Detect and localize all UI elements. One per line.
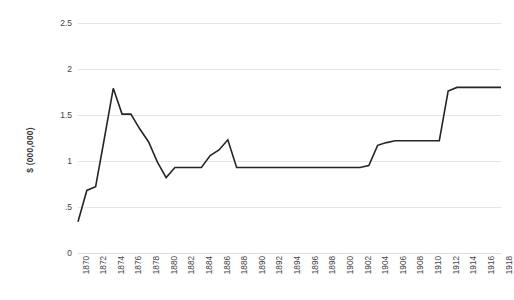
x-tick-label: 1890 <box>258 256 267 290</box>
y-axis-title: $ (000,000) <box>22 0 38 300</box>
gridline <box>78 253 501 254</box>
series-path <box>78 87 501 221</box>
x-tick-label: 1906 <box>399 256 408 290</box>
x-tick-label: 1880 <box>170 256 179 290</box>
x-tick-label: 1874 <box>117 256 126 290</box>
y-tick-label: .5 <box>42 202 72 212</box>
x-tick-label: 1914 <box>469 256 478 290</box>
series-line-value <box>78 23 501 253</box>
x-tick-label: 1884 <box>205 256 214 290</box>
x-tick-label: 1896 <box>311 256 320 290</box>
y-tick-label: 1.5 <box>42 110 72 120</box>
x-tick-label: 1916 <box>487 256 496 290</box>
y-tick-label: 1 <box>42 156 72 166</box>
x-axis-tick-labels: 1870187218741876187818801882188418861888… <box>78 256 501 300</box>
x-tick-label: 1894 <box>293 256 302 290</box>
x-tick-label: 1908 <box>416 256 425 290</box>
x-tick-label: 1888 <box>240 256 249 290</box>
x-tick-label: 1892 <box>275 256 284 290</box>
x-tick-label: 1878 <box>152 256 161 290</box>
x-tick-label: 1882 <box>187 256 196 290</box>
y-axis-tick-labels: 0.511.522.5 <box>40 23 72 253</box>
x-tick-label: 1904 <box>381 256 390 290</box>
x-tick-label: 1900 <box>346 256 355 290</box>
x-tick-label: 1870 <box>82 256 91 290</box>
x-tick-label: 1918 <box>505 256 514 290</box>
x-tick-label: 1886 <box>223 256 232 290</box>
x-tick-label: 1910 <box>434 256 443 290</box>
x-tick-label: 1912 <box>452 256 461 290</box>
x-tick-label: 1898 <box>328 256 337 290</box>
x-tick-label: 1872 <box>99 256 108 290</box>
plot-area <box>78 23 501 253</box>
y-tick-label: 2.5 <box>42 18 72 28</box>
y-tick-label: 0 <box>42 248 72 258</box>
y-tick-label: 2 <box>42 64 72 74</box>
x-tick-label: 1902 <box>364 256 373 290</box>
x-tick-label: 1876 <box>134 256 143 290</box>
